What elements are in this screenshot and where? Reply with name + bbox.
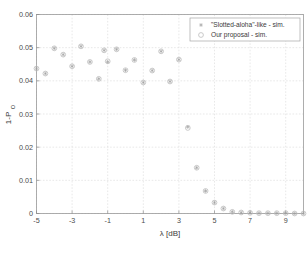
x-axis-title: λ [dB] [160, 229, 180, 238]
data-point-star [168, 80, 171, 84]
data-point-star [53, 46, 56, 50]
y-tick-labels: 00.010.020.030.040.050.06 [19, 10, 33, 218]
data-point-star [115, 47, 118, 51]
y-tick-label: 0.03 [19, 110, 33, 119]
data-point-star [70, 64, 73, 68]
y-tick-label: 0.04 [19, 76, 33, 85]
x-tick-labels: -5-3-113579 [33, 216, 287, 225]
data-point-star [204, 189, 207, 193]
data-point-star [248, 211, 251, 215]
x-tick-label: 1 [141, 216, 145, 225]
y-tick-label: 0.02 [19, 143, 33, 152]
plot-frame-rect [37, 15, 304, 214]
data-point-star [159, 49, 162, 53]
chart-figure: 00.010.020.030.040.050.06 -5-3-113579 λ … [0, 0, 308, 253]
data-point-star [88, 60, 91, 64]
data-points-layer [34, 44, 306, 216]
x-tick-label: 3 [177, 216, 181, 225]
data-point-star [151, 69, 154, 73]
svg-text:λ [dB]: λ [dB] [160, 229, 180, 238]
x-tick-label: 5 [213, 216, 217, 225]
data-point-star [195, 166, 198, 170]
y-axis-title: 1-P O [4, 104, 16, 124]
svg-text:1-P: 1-P [4, 112, 13, 124]
svg-text:O: O [10, 104, 16, 109]
data-point-star [62, 53, 65, 57]
x-tick-label: 7 [248, 216, 252, 225]
data-point-star [177, 58, 180, 62]
y-tick-label: 0.01 [19, 176, 33, 185]
data-point-star [124, 68, 127, 72]
data-point-star [133, 58, 136, 62]
x-tick-label: 9 [284, 216, 288, 225]
y-tick-label: 0.06 [19, 10, 33, 19]
x-tick-label: -1 [104, 216, 110, 225]
data-point-star [213, 201, 216, 205]
legend-label: "Slotted-aloha"-like - sim. [211, 21, 285, 28]
x-tick-label: -3 [69, 216, 75, 225]
data-point-star [97, 77, 100, 81]
data-point-star [35, 67, 38, 71]
y-tick-label: 0.05 [19, 43, 33, 52]
data-point-star [44, 72, 47, 76]
x-tick-label: -5 [33, 216, 39, 225]
plot-frame [37, 15, 304, 214]
series-slotted-aloha [35, 44, 305, 215]
data-point-star [222, 207, 225, 211]
chart-legend: "Slotted-aloha"-like - sim.Our proposal … [190, 18, 300, 41]
series-our-proposal [34, 44, 306, 216]
scatter-plot-canvas: 00.010.020.030.040.050.06 -5-3-113579 λ … [0, 0, 308, 253]
data-point-star [142, 81, 145, 85]
data-point-star [102, 48, 105, 52]
grid-layer [37, 15, 304, 214]
legend-label: Our proposal - sim. [211, 31, 267, 39]
